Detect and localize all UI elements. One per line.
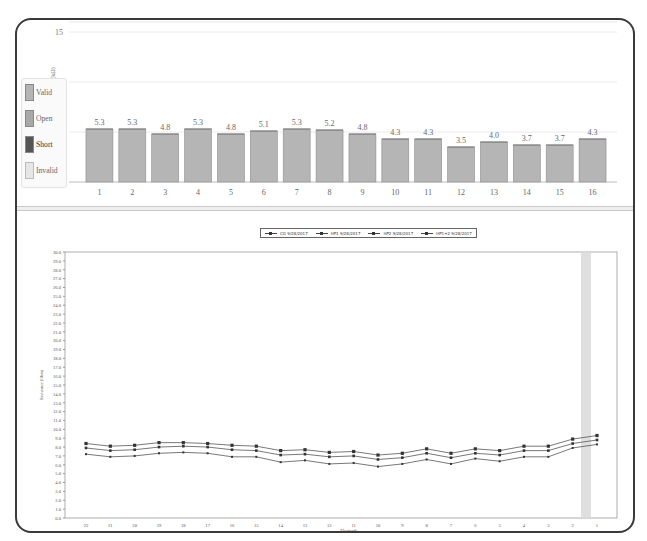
data-point-marker[interactable] (84, 442, 87, 445)
x-tick-label: 7 (295, 188, 299, 197)
data-point-marker[interactable] (157, 441, 160, 444)
data-point-marker[interactable] (547, 449, 550, 452)
data-point-marker[interactable] (523, 449, 526, 452)
data-point-marker[interactable] (474, 458, 476, 460)
bar[interactable] (349, 134, 376, 182)
y-tick-label: 12.0 (53, 409, 62, 414)
data-point-marker[interactable] (352, 455, 355, 458)
bar[interactable] (448, 147, 475, 182)
bar[interactable] (152, 134, 179, 182)
data-point-marker[interactable] (230, 444, 233, 447)
data-point-marker[interactable] (207, 452, 209, 454)
data-point-marker[interactable] (279, 449, 282, 452)
bar[interactable] (316, 130, 343, 182)
bar[interactable] (382, 139, 409, 182)
data-point-marker[interactable] (182, 451, 184, 453)
data-point-marker[interactable] (376, 453, 379, 456)
bar[interactable] (86, 129, 113, 182)
data-point-marker[interactable] (206, 442, 209, 445)
data-point-marker[interactable] (572, 447, 574, 449)
y-tick-label: 10.0 (53, 427, 62, 432)
data-point-marker[interactable] (571, 442, 574, 445)
data-point-marker[interactable] (133, 444, 136, 447)
short-swatch-icon (25, 136, 34, 153)
data-point-marker[interactable] (499, 460, 501, 462)
legend-item-invalid: Invalid (22, 157, 66, 183)
data-point-marker[interactable] (449, 452, 452, 455)
bar-value-label: 5.3 (292, 118, 302, 127)
data-point-marker[interactable] (255, 445, 258, 448)
bar[interactable] (283, 129, 310, 182)
bar[interactable] (250, 131, 277, 182)
legend-item-valid: Valid (22, 79, 66, 105)
data-point-marker[interactable] (401, 452, 404, 455)
y-tick-label: 2.0 (55, 498, 61, 503)
data-point-marker[interactable] (425, 447, 428, 450)
bar[interactable] (217, 134, 244, 182)
data-point-marker[interactable] (571, 437, 574, 440)
data-point-marker[interactable] (158, 452, 160, 454)
data-point-marker[interactable] (450, 456, 453, 459)
data-point-marker[interactable] (401, 463, 403, 465)
bar-value-label: 5.3 (193, 118, 203, 127)
data-point-marker[interactable] (255, 456, 257, 458)
data-point-marker[interactable] (182, 445, 185, 448)
bar[interactable] (119, 129, 146, 182)
x-tick-label: 10 (391, 188, 399, 197)
legend-item-cg: CG 9/28/2017 (265, 231, 308, 236)
data-point-marker[interactable] (523, 456, 525, 458)
data-point-marker[interactable] (231, 456, 233, 458)
bar[interactable] (185, 129, 212, 182)
data-point-marker[interactable] (85, 447, 88, 450)
data-point-marker[interactable] (109, 456, 111, 458)
data-point-marker[interactable] (547, 445, 550, 448)
data-point-marker[interactable] (182, 441, 185, 444)
data-point-marker[interactable] (328, 463, 330, 465)
data-point-marker[interactable] (133, 448, 136, 451)
data-point-marker[interactable] (377, 466, 379, 468)
data-point-marker[interactable] (304, 459, 306, 461)
data-point-marker[interactable] (255, 449, 258, 452)
data-point-marker[interactable] (109, 449, 112, 452)
y-tick-label: 14.0 (53, 392, 62, 397)
data-point-marker[interactable] (328, 456, 331, 459)
data-point-marker[interactable] (474, 452, 477, 455)
bar[interactable] (546, 145, 573, 182)
data-point-marker[interactable] (426, 458, 428, 460)
data-point-marker[interactable] (498, 454, 501, 457)
data-point-marker[interactable] (304, 453, 307, 456)
data-point-marker[interactable] (85, 453, 87, 455)
data-point-marker[interactable] (109, 445, 112, 448)
data-point-marker[interactable] (425, 452, 428, 455)
data-point-marker[interactable] (303, 448, 306, 451)
x-tick-label: 13 (303, 523, 308, 528)
bar[interactable] (513, 145, 540, 182)
data-point-marker[interactable] (401, 456, 404, 459)
y-tick-label: 5.0 (55, 471, 61, 476)
data-point-marker[interactable] (547, 456, 549, 458)
data-point-marker[interactable] (596, 443, 598, 445)
data-point-marker[interactable] (596, 439, 599, 442)
data-point-marker[interactable] (352, 450, 355, 453)
bar[interactable] (415, 139, 442, 182)
data-point-marker[interactable] (279, 454, 282, 457)
data-point-marker[interactable] (498, 449, 501, 452)
legend-label: HP1 9/28/2017 (331, 231, 361, 236)
data-point-marker[interactable] (158, 446, 161, 449)
data-point-marker[interactable] (328, 451, 331, 454)
data-point-marker[interactable] (522, 445, 525, 448)
data-point-marker[interactable] (206, 446, 209, 449)
data-point-marker[interactable] (134, 455, 136, 457)
bar[interactable] (480, 142, 507, 182)
bar[interactable] (579, 139, 606, 182)
y-tick-label: 25.0 (53, 294, 62, 299)
selected-electrode-highlight[interactable] (581, 252, 591, 518)
data-point-marker[interactable] (474, 447, 477, 450)
data-point-marker[interactable] (231, 448, 234, 451)
panel-divider[interactable] (17, 206, 633, 211)
data-point-marker[interactable] (595, 434, 598, 437)
data-point-marker[interactable] (280, 461, 282, 463)
data-point-marker[interactable] (377, 458, 380, 461)
data-point-marker[interactable] (450, 463, 452, 465)
data-point-marker[interactable] (353, 462, 355, 464)
